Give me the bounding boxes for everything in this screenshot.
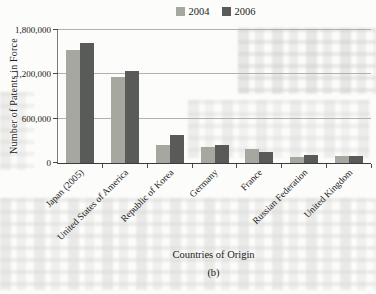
bar-2004-russian-federation [290, 157, 304, 163]
legend-label-2004: 2004 [189, 6, 210, 17]
y-tick-label: 600,000 [22, 114, 51, 123]
y-axis-title: Number of Patents in Force [8, 30, 20, 163]
legend-swatch-2006 [222, 7, 231, 16]
y-tick-label: 1,200,000 [15, 70, 51, 79]
category-label-france: France [240, 168, 265, 193]
bar-group [192, 30, 237, 163]
bar-group [237, 30, 282, 163]
bar-2006-japan-2005- [80, 43, 94, 163]
bar-2004-republic-of-korea [156, 145, 170, 163]
bars-container [58, 30, 371, 163]
legend-swatch-2004 [176, 7, 185, 16]
bar-group [103, 30, 148, 163]
bar-2006-republic-of-korea [170, 135, 184, 163]
bar-2004-france [245, 149, 259, 163]
bar-2006-russian-federation [304, 155, 318, 163]
legend-item-2006: 2006 [222, 6, 256, 17]
bar-group [147, 30, 192, 163]
y-tick-label: 1,800,000 [15, 26, 51, 35]
bar-2006-france [259, 152, 273, 163]
bar-chart: 20042006 Number of Patents in Force 0600… [0, 0, 376, 294]
bar-2004-japan-2005- [66, 50, 80, 163]
bar-group [282, 30, 327, 163]
category-label-germany: Germany [188, 168, 220, 200]
bar-2006-germany [215, 145, 229, 163]
y-tick-label: 0 [47, 159, 52, 168]
bar-2006-united-kingdom [349, 156, 363, 163]
x-axis-title: Countries of Origin [57, 249, 370, 260]
plot-area: 0600,0001,200,0001,800,000 [57, 30, 371, 164]
bar-2006-united-states-of-america [125, 71, 139, 163]
subfigure-caption: (b) [57, 267, 370, 278]
category-label-japan-2005-: Japan (2005) [44, 168, 86, 210]
bar-2004-germany [201, 147, 215, 163]
chart-legend: 20042006 [55, 6, 376, 17]
legend-label-2006: 2006 [235, 6, 256, 17]
bar-group [326, 30, 371, 163]
category-label-united-kingdom: United Kingdom [302, 168, 354, 220]
scanned-page: 20042006 Number of Patents in Force 0600… [0, 0, 376, 294]
bar-2004-united-kingdom [335, 156, 349, 163]
legend-item-2004: 2004 [176, 6, 210, 17]
bar-2004-united-states-of-america [111, 77, 125, 163]
bar-group [58, 30, 103, 163]
